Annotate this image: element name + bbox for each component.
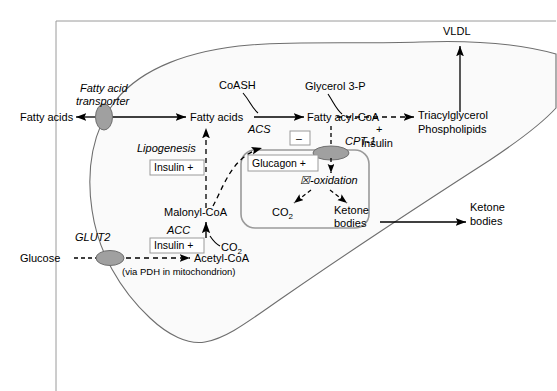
fatty-acid-transporter-label-line2: transporter (76, 95, 131, 107)
acc-insulin-box: Insulin + (150, 238, 204, 253)
phospholipids-label: Phospholipids (418, 123, 487, 135)
extracellular-ketone-bodies-line1: Ketone (470, 201, 505, 213)
glucagon-box: Glucagon + (248, 155, 318, 171)
glucagon-label: Glucagon + (252, 157, 306, 169)
glucose-label: Glucose (20, 252, 60, 264)
extracellular-fatty-acids-label: Fatty acids (20, 111, 74, 123)
cpt1-inhibition-box: – (290, 131, 310, 145)
lipogenesis-insulin-label: Insulin + (154, 161, 193, 173)
acc-enzyme-label: ACC (166, 224, 190, 236)
coash-label: CoASH (219, 79, 256, 91)
figure-canvas: Fatty acid transporter Fatty acids Fatty… (0, 0, 557, 391)
cytosol-fatty-acids-label: Fatty acids (190, 111, 244, 123)
beta-oxidation-label: ☒-oxidation (300, 174, 358, 186)
insulin-plus-sign: + (376, 123, 382, 135)
vldl-label: VLDL (443, 25, 471, 37)
fatty-acid-transporter-icon (96, 104, 113, 130)
mitochondrial-ketone-bodies-line1: Ketone (334, 204, 369, 216)
glut2-label: GLUT2 (75, 231, 110, 243)
acc-insulin-label: Insulin + (154, 239, 193, 251)
metabolism-diagram: Fatty acid transporter Fatty acids Fatty… (0, 0, 557, 391)
mitochondrial-ketone-bodies-line2: bodies (334, 217, 367, 229)
fatty-acid-transporter-label-line1: Fatty acid (80, 82, 129, 94)
extracellular-ketone-bodies-line2: bodies (470, 215, 503, 227)
glut2-transporter-icon (96, 251, 124, 266)
lipogenesis-label: Lipogenesis (137, 142, 196, 154)
malonyl-coa-label: Malonyl-CoA (164, 206, 228, 218)
triacylglycerol-label: Triacylglycerol (418, 109, 488, 121)
inhibition-minus-sign: – (296, 132, 302, 144)
glycerol-3p-label: Glycerol 3-P (305, 80, 366, 92)
lipogenesis-insulin-box: Insulin + (150, 160, 204, 175)
acetyl-coa-label: Acetyl-CoA (194, 252, 250, 264)
pdh-note-label: (via PDH in mitochondrion) (122, 266, 236, 277)
acs-enzyme-label: ACS (247, 123, 271, 135)
cpt1-label: CPT-1 (345, 135, 376, 147)
